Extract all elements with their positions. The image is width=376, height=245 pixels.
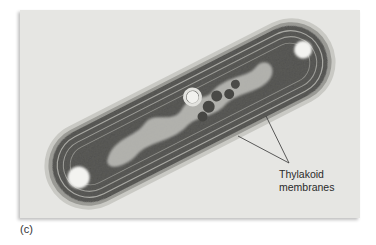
annotation-thylakoid: Thylakoid xyxy=(279,168,324,180)
panel-label: (c) xyxy=(20,223,33,235)
annotation-membranes: membranes xyxy=(279,181,334,193)
